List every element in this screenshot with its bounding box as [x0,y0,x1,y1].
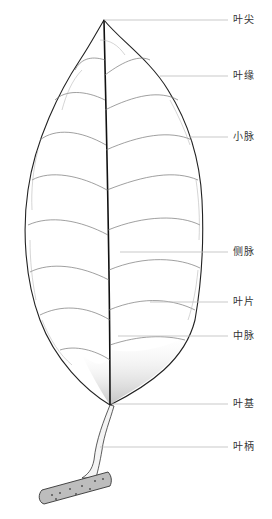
leaf-illustration [0,0,272,519]
label-leaf-margin: 叶缘 [233,70,255,82]
label-lateral-vein: 侧脉 [233,246,255,258]
petiole [82,405,114,478]
label-leaf-apex: 叶尖 [233,14,255,26]
label-petiole: 叶柄 [233,441,255,453]
label-leaf-base: 叶基 [233,398,255,410]
label-veinlet: 小脉 [233,131,255,143]
branch-stub [39,472,111,504]
label-midrib: 中脉 [233,330,255,342]
label-leaf-blade: 叶片 [233,296,255,308]
